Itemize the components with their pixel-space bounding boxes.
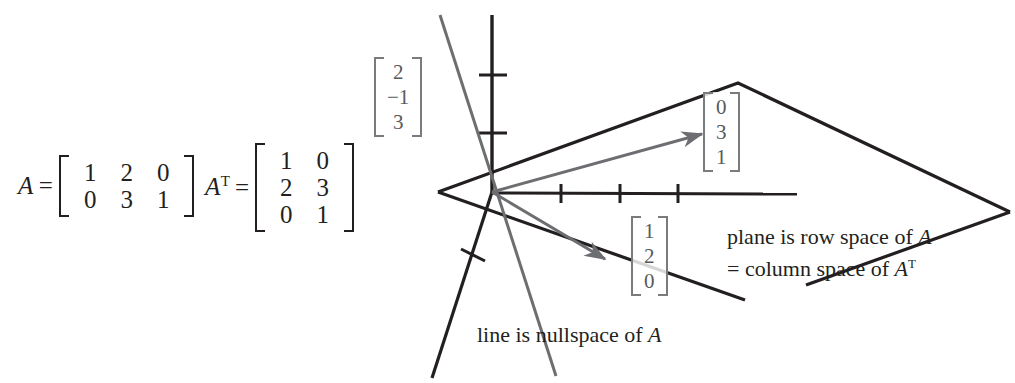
vector-cell: 0 (712, 95, 731, 120)
matrix-AT-cell: 1 (305, 201, 342, 228)
matrix-AT-cell: 0 (305, 147, 342, 174)
caption-nullspace: line is nullspace of A (477, 322, 662, 348)
vector-row: 3 (712, 120, 731, 145)
matrix-A-transpose-grid: 1 0 2 3 0 1 (268, 147, 341, 228)
vector-cell: 2 (383, 60, 413, 85)
caption-row-space-matrix: A (918, 224, 931, 249)
matrix-A-grid: 1 2 0 0 3 1 (72, 159, 182, 213)
x-axis (492, 193, 797, 194)
vector-cell: 1 (640, 219, 659, 244)
matrix-A-expression: A = 1 2 0 0 3 1 (18, 155, 194, 217)
caption-column-space-transpose: T (908, 256, 916, 271)
nullspace-vector-grid: 2 −1 3 (383, 60, 413, 134)
matrix-A-name: A (18, 172, 34, 200)
matrix-A-transpose-brackets: 1 0 2 3 0 1 (255, 143, 354, 232)
matrix-A-transpose-name: AT (205, 173, 230, 201)
vector-cell: 2 (640, 244, 659, 269)
row-space-vector-1-grid: 0 3 1 (712, 95, 731, 169)
matrix-AT-cell: 1 (268, 147, 305, 174)
vector-row: −1 (383, 85, 413, 110)
matrix-A-equals: = (39, 172, 53, 200)
row-space-vector-1-brackets: 0 3 1 (703, 92, 740, 172)
vector-row: 0 (640, 269, 659, 294)
matrix-A-cell: 3 (108, 186, 145, 213)
matrix-AT-row: 1 0 (268, 147, 341, 174)
vector-cell: 1 (712, 145, 731, 170)
matrix-AT-row: 0 1 (268, 201, 341, 228)
matrix-AT-row: 2 3 (268, 174, 341, 201)
caption-nullspace-text: line is nullspace of (477, 322, 648, 347)
matrix-A-row: 1 2 0 (72, 159, 182, 186)
row-vector-arrow-1 (492, 134, 702, 192)
caption-nullspace-matrix: A (648, 322, 661, 347)
transpose-mark: T (221, 173, 230, 189)
row-space-vector-2-label: 1 2 0 (631, 216, 668, 300)
matrix-A-transpose-expression: AT = 1 0 2 3 0 1 (205, 143, 354, 232)
matrix-A-transpose-equals: = (235, 174, 249, 202)
row-space-vector-2-brackets: 1 2 0 (631, 216, 668, 296)
vector-row: 0 (712, 95, 731, 120)
matrix-A-cell: 0 (72, 186, 109, 213)
vector-row: 3 (383, 110, 413, 135)
matrix-A-brackets: 1 2 0 0 3 1 (59, 155, 195, 217)
matrix-A-transpose-letter: A (205, 174, 221, 201)
caption-column-space-text: = column space of (727, 256, 895, 281)
caption-column-space: = column space of AT (727, 256, 916, 282)
nullspace-vector-brackets: 2 −1 3 (374, 57, 422, 137)
vector-cell: 3 (383, 110, 413, 135)
matrix-A-cell: 0 (145, 159, 182, 186)
matrix-A-cell: 2 (108, 159, 145, 186)
matrix-AT-cell: 0 (268, 201, 305, 228)
vector-row: 1 (640, 219, 659, 244)
matrix-AT-cell: 2 (268, 174, 305, 201)
matrix-A-cell: 1 (72, 159, 109, 186)
vector-cell: −1 (383, 85, 413, 110)
vector-row: 1 (712, 145, 731, 170)
caption-row-space-text: plane is row space of (727, 224, 918, 249)
matrix-A-cell: 1 (145, 186, 182, 213)
row-space-vector-2-grid: 1 2 0 (640, 219, 659, 293)
row-space-vector-1-label: 0 3 1 (703, 92, 740, 176)
vector-cell: 3 (712, 120, 731, 145)
plane-lower-left-edge (438, 192, 745, 300)
vector-row: 2 (640, 244, 659, 269)
z-axis (432, 192, 492, 378)
caption-row-space: plane is row space of A (727, 224, 932, 250)
matrix-A-row: 0 3 1 (72, 186, 182, 213)
vector-cell: 0 (640, 269, 659, 294)
caption-column-space-matrix: A (895, 256, 908, 281)
nullspace-vector-label: 2 −1 3 (374, 57, 422, 141)
vector-row: 2 (383, 60, 413, 85)
matrix-AT-cell: 3 (305, 174, 342, 201)
